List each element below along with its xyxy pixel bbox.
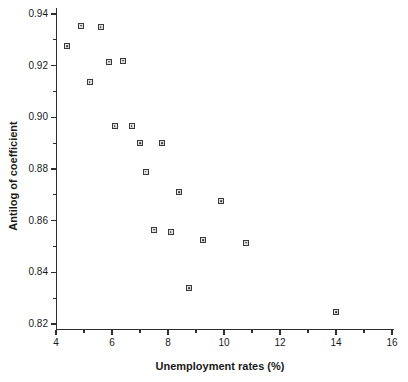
y-minor-tick [53,143,56,144]
x-tick-label: 14 [321,338,351,348]
data-point [112,123,118,129]
data-point [151,227,157,233]
y-tick-label: 0.88 [15,164,48,174]
data-point [106,59,112,65]
y-minor-tick [53,246,56,247]
x-minor-tick [307,330,308,333]
data-point [98,24,104,30]
y-tick-label: 0.84 [15,267,48,277]
y-tick-label: 0.94 [15,9,48,19]
x-tick-label: 4 [41,338,71,348]
data-point [218,198,224,204]
x-major-tick [335,330,336,335]
data-point [129,123,135,129]
x-tick-label: 12 [265,338,295,348]
x-minor-tick [251,330,252,333]
y-tick-label: 0.82 [15,319,48,329]
y-minor-tick [53,91,56,92]
y-major-tick [51,323,56,324]
data-point [168,229,174,235]
x-tick-label: 10 [209,338,239,348]
data-point [200,237,206,243]
data-point [243,240,249,246]
y-tick-label: 0.90 [15,112,48,122]
plot-area: 0.940.920.900.880.860.840.8246810121416 [56,8,394,330]
y-major-tick [51,272,56,273]
data-point [137,140,143,146]
data-point [143,169,149,175]
y-tick-label: 0.92 [15,61,48,71]
x-axis-title: Unemployment rates (%) [156,360,285,372]
x-minor-tick [83,330,84,333]
y-major-tick [51,117,56,118]
x-major-tick [55,330,56,335]
x-major-tick [279,330,280,335]
x-axis-line [56,329,394,330]
x-minor-tick [363,330,364,333]
data-point [78,23,84,29]
x-major-tick [391,330,392,335]
data-point [176,189,182,195]
y-minor-tick [53,298,56,299]
y-axis-line [56,8,57,330]
scatter-chart: 0.940.920.900.880.860.840.8246810121416 … [0,0,408,382]
y-major-tick [51,220,56,221]
y-axis-title: Antilog of coefficient [7,121,19,230]
x-minor-tick [195,330,196,333]
y-tick-label: 0.86 [15,216,48,226]
y-minor-tick [53,39,56,40]
x-tick-label: 16 [377,338,407,348]
x-major-tick [111,330,112,335]
y-major-tick [51,168,56,169]
x-minor-tick [139,330,140,333]
x-major-tick [223,330,224,335]
y-minor-tick [53,194,56,195]
data-point [186,285,192,291]
y-major-tick [51,13,56,14]
data-point [159,140,165,146]
y-major-tick [51,65,56,66]
data-point [64,43,70,49]
x-major-tick [167,330,168,335]
x-tick-label: 6 [97,338,127,348]
x-tick-label: 8 [153,338,183,348]
data-point [333,309,339,315]
data-point [120,58,126,64]
data-point [87,79,93,85]
